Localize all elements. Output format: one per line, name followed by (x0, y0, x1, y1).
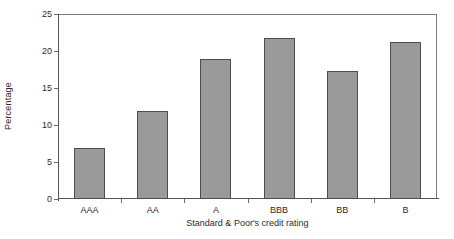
y-axis-tick-mark (54, 162, 58, 163)
x-axis-tick-label: BBB (248, 205, 311, 216)
y-axis-tick-mark (54, 199, 58, 200)
x-axis-tick-mark (374, 199, 375, 203)
y-axis-tick-mark (54, 88, 58, 89)
y-axis-tick-label: 10 (33, 121, 52, 130)
bar (390, 42, 421, 199)
y-axis-tick-label: 20 (33, 47, 52, 56)
y-axis-tick-label: 0 (33, 195, 52, 204)
y-axis-tick-label: 5 (33, 158, 52, 167)
y-axis-tick-mark (54, 51, 58, 52)
x-axis-tick-mark (248, 199, 249, 203)
y-axis-tick-label: 15 (33, 84, 52, 93)
x-axis-title: Standard & Poor's credit rating (58, 218, 437, 229)
bar (137, 111, 168, 199)
x-axis-tick-mark (184, 199, 185, 203)
x-axis-tick-label: BB (311, 205, 374, 216)
x-axis-tick-label: A (184, 205, 247, 216)
y-axis-tick-mark (54, 14, 58, 15)
bar (264, 38, 295, 199)
y-axis-tick-labels: 0510152025 (33, 0, 52, 239)
bar (74, 148, 105, 199)
x-axis-tick-mark (121, 199, 122, 203)
bar (200, 59, 231, 199)
x-axis-tick-label: AA (121, 205, 184, 216)
x-axis-tick-mark (311, 199, 312, 203)
bar (327, 71, 358, 199)
bar-chart: Percentage 0510152025 Standard & Poor's … (0, 0, 454, 239)
y-axis-tick-mark (54, 125, 58, 126)
y-axis-tick-label: 25 (33, 10, 52, 19)
bars-layer (58, 14, 437, 199)
y-axis-title: Percentage (1, 14, 15, 199)
x-axis-tick-label: B (374, 205, 437, 216)
x-axis-tick-label: AAA (58, 205, 121, 216)
